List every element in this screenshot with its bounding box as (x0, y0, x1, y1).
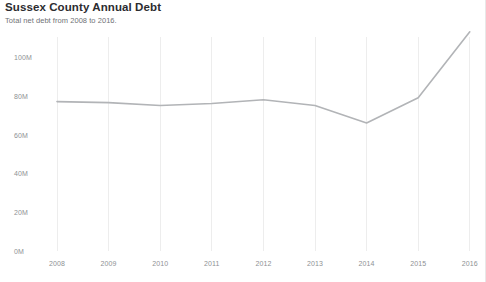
gridlines (57, 37, 470, 251)
y-axis-tick-label: 20M (14, 209, 28, 216)
y-axis-tick-labels: 100M80M60M40M20M0M (14, 54, 32, 255)
y-axis-tick-label: 40M (14, 170, 28, 177)
y-axis-tick-label: 0M (14, 248, 24, 255)
x-axis-tick-labels: 200820092010201120122013201420152016 (49, 260, 478, 267)
line-chart-plot: 100M80M60M40M20M0M 200820092010201120122… (0, 0, 486, 282)
x-axis-tick-label: 2012 (255, 260, 271, 267)
x-axis-tick-label: 2009 (101, 260, 117, 267)
y-axis-tick-label: 60M (14, 132, 28, 139)
x-axis-tick-label: 2011 (204, 260, 219, 267)
x-axis-tick-label: 2016 (462, 260, 478, 267)
x-axis-tick-label: 2013 (307, 260, 323, 267)
chart-container: Sussex County Annual Debt Total net debt… (0, 0, 486, 282)
x-axis-tick-label: 2014 (359, 260, 375, 267)
y-axis-tick-label: 80M (14, 93, 28, 100)
x-axis-tick-label: 2008 (49, 260, 65, 267)
x-axis-tick-label: 2015 (410, 260, 426, 267)
x-axis-tick-label: 2010 (152, 260, 168, 267)
y-axis-tick-label: 100M (14, 54, 32, 61)
